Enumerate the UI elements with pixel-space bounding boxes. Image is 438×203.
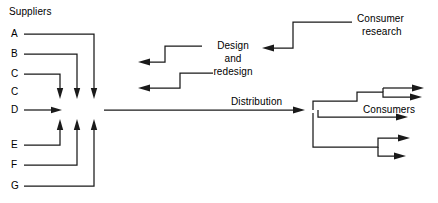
supplier-label-c1: C (11, 68, 21, 79)
design-feedback-arrow-upper (138, 46, 202, 66)
consumers-label: Consumers (363, 104, 415, 115)
consumer-research-feedback-arrow (262, 22, 352, 52)
supplier-label-e: E (11, 139, 21, 150)
supplier-c1-flow-line (24, 74, 63, 99)
consumer-branch-bottom (313, 113, 410, 160)
supplier-label-g: G (11, 180, 21, 191)
supplier-label-c2: C (11, 86, 21, 97)
distribution-label: Distribution (231, 96, 282, 107)
supplier-label-d: D (11, 104, 21, 115)
suppliers-heading: Suppliers (9, 6, 52, 17)
supplier-d-flow-line (24, 107, 62, 113)
design-label-line1: Design (207, 40, 259, 51)
diagram-canvas: Suppliers A B C C D E F G Design and red… (0, 0, 438, 203)
supplier-label-a: A (11, 28, 21, 39)
distribution-main-line (104, 107, 305, 114)
consumer-research-label-line1: Consumer (357, 13, 404, 24)
design-label-line2: and (207, 53, 259, 64)
supplier-label-b: B (11, 48, 21, 59)
design-label-line3: redesign (205, 66, 261, 77)
supplier-b-flow-line (24, 54, 80, 99)
supplier-e-flow-line (24, 119, 63, 145)
supplier-f-flow-line (24, 119, 80, 165)
consumer-research-label-line2: research (362, 26, 402, 37)
supplier-label-f: F (11, 159, 21, 170)
design-feedback-arrow-lower (138, 73, 213, 92)
